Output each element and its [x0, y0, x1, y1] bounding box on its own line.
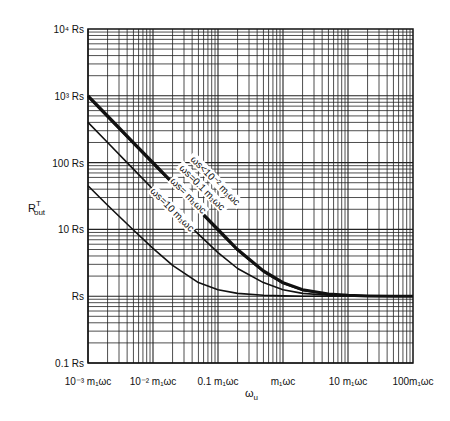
x-tick-label: 10 m₁ωc — [329, 376, 367, 387]
x-tick-labels: 10⁻³ m₁ωc10⁻² m₁ωc0.1 m₁ωcm₁ωc10 m₁ωc100… — [65, 376, 434, 387]
curve-2 — [88, 97, 413, 296]
x-tick-label: 10⁻² m₁ωc — [130, 376, 177, 387]
curve-4 — [88, 186, 413, 296]
y-axis-label: RTout — [28, 199, 46, 217]
x-tick-label: 100m₁ωc — [392, 376, 433, 387]
y-tick-label: 100 Rs — [52, 158, 84, 169]
x-tick-label: 0.1 m₁ωc — [197, 376, 238, 387]
y-tick-label: 10³ Rs — [55, 91, 84, 102]
y-tick-labels: 0.1 RsRs10 Rs100 Rs10³ Rs10⁴ Rs — [52, 24, 84, 369]
grid — [88, 29, 413, 363]
y-tick-label: Rs — [72, 291, 84, 302]
y-tick-label: 0.1 Rs — [55, 358, 84, 369]
y-tick-label: 10⁴ Rs — [54, 24, 84, 35]
x-tick-label: m₁ωc — [271, 376, 296, 387]
plot-frame — [88, 29, 413, 363]
log-log-chart: ωs<10⁻² m₁ωcωs=0.1 m₁ωcωs= m₁ωcωs=10 m₁ω… — [0, 0, 450, 421]
x-tick-label: 10⁻³ m₁ωc — [65, 376, 112, 387]
curves — [88, 96, 413, 296]
curve-1 — [88, 96, 413, 296]
y-tick-label: 10 Rs — [58, 224, 84, 235]
x-axis-label: ωu — [245, 387, 258, 402]
curve-labels: ωs<10⁻² m₁ωcωs=0.1 m₁ωcωs= m₁ωcωs=10 m₁ω… — [147, 151, 244, 234]
